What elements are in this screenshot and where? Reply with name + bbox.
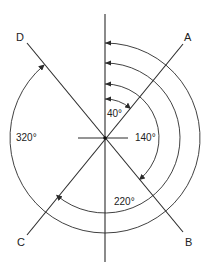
bearing-diagram: A B C D 40° 140° 220° 320° — [0, 0, 204, 274]
arrowhead-north-140 — [105, 82, 111, 87]
arrowhead-north-220 — [105, 61, 111, 66]
angle-label-220: 220° — [114, 196, 135, 207]
label-d: D — [16, 31, 24, 43]
angle-label-140: 140° — [135, 132, 156, 143]
arrowhead-north-40 — [105, 97, 111, 102]
label-b: B — [185, 236, 192, 248]
angle-label-40: 40° — [107, 108, 122, 119]
label-a: A — [184, 31, 192, 43]
arrowhead-north-320 — [105, 41, 111, 46]
center-point — [103, 136, 107, 140]
angle-label-320: 320° — [16, 132, 37, 143]
label-c: C — [17, 236, 25, 248]
